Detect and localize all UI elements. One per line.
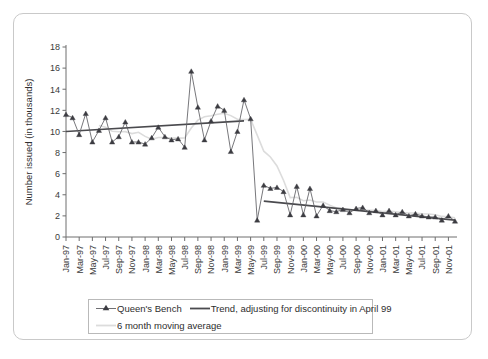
x-tick-label: Jul-00 [338, 245, 348, 270]
data-point-marker [70, 115, 75, 120]
x-tick-label: Nov-01 [444, 245, 454, 274]
x-tick-label: Mar-98 [154, 245, 164, 274]
legend-label-moving-average: 6 month moving average [117, 320, 222, 331]
x-tick-label: May-00 [325, 245, 335, 275]
x-tick-label: Jul-01 [417, 245, 427, 270]
data-point-marker [222, 108, 227, 113]
y-tick-label: 10 [50, 127, 60, 137]
x-tick-label: Nov-99 [286, 245, 296, 274]
queens-bench-line [66, 71, 455, 221]
data-point-marker [241, 97, 246, 102]
data-point-marker [360, 205, 365, 210]
x-axis: Jan-97Mar-97May-97Jul-97Sep-97Nov-97Jan-… [61, 237, 457, 275]
legend-row-1: Queen's Bench Trend, adjusting for disco… [89, 300, 372, 317]
data-point-marker [386, 208, 391, 213]
queens-bench-series [63, 69, 457, 223]
y-axis: 024681012141618 [50, 42, 66, 242]
data-point-marker [248, 116, 253, 121]
chart-figure: 024681012141618 Jan-97Mar-97May-97Jul-97… [0, 0, 488, 359]
data-point-marker [235, 129, 240, 134]
trend-line-segment [66, 121, 244, 132]
data-point-marker [446, 213, 451, 218]
x-tick-label: May-01 [404, 245, 414, 275]
y-tick-label: 16 [50, 63, 60, 73]
y-tick-label: 8 [55, 148, 60, 158]
x-tick-label: Nov-98 [206, 245, 216, 274]
legend-label-trend: Trend, adjusting for discontinuity in Ap… [211, 303, 392, 314]
y-axis-title: Number issued (in thousands) [23, 79, 34, 206]
triangle-marker-key-icon [95, 303, 117, 314]
y-tick-label: 2 [55, 211, 60, 221]
data-point-marker [288, 212, 293, 217]
x-tick-label: Jan-97 [61, 245, 71, 273]
data-point-marker [208, 118, 213, 123]
x-tick-label: Mar-00 [312, 245, 322, 274]
data-point-marker [228, 149, 233, 154]
data-point-marker [162, 134, 167, 139]
data-point-marker [83, 111, 88, 116]
x-tick-label: Jul-98 [180, 245, 190, 270]
x-tick-label: Nov-97 [127, 245, 137, 274]
data-point-marker [301, 212, 306, 217]
x-tick-label: May-97 [88, 245, 98, 275]
data-point-marker [400, 209, 405, 214]
x-tick-label: May-99 [246, 245, 256, 275]
data-point-marker [189, 69, 194, 74]
y-tick-label: 18 [50, 42, 60, 52]
solid-line-key-icon [189, 303, 211, 314]
data-point-marker [77, 132, 82, 137]
x-tick-label: May-98 [167, 245, 177, 275]
x-tick-label: Sep-01 [431, 245, 441, 274]
x-tick-label: Jul-99 [259, 245, 269, 270]
data-point-marker [90, 140, 95, 145]
legend-label-queens-bench: Queen's Bench [117, 303, 182, 314]
trend-series [66, 121, 455, 220]
x-tick-label: Mar-01 [391, 245, 401, 274]
y-tick-label: 6 [55, 169, 60, 179]
y-tick-label: 12 [50, 106, 60, 116]
x-tick-label: Sep-97 [114, 245, 124, 274]
y-axis-label: Number issued (in thousands) [23, 79, 34, 206]
data-point-marker [261, 183, 266, 188]
x-tick-label: Mar-99 [233, 245, 243, 274]
light-line-key-icon [95, 320, 117, 331]
x-tick-label: Jan-99 [220, 245, 230, 273]
x-tick-label: Jan-00 [299, 245, 309, 273]
data-point-marker [202, 137, 207, 142]
data-point-marker [274, 185, 279, 190]
data-point-marker [63, 112, 68, 117]
y-tick-label: 0 [55, 232, 60, 242]
data-point-marker [195, 105, 200, 110]
y-tick-label: 14 [50, 85, 60, 95]
y-tick-label: 4 [55, 190, 60, 200]
x-tick-label: Jan-98 [141, 245, 151, 273]
x-tick-label: Sep-00 [352, 245, 362, 274]
x-tick-label: Sep-99 [272, 245, 282, 274]
data-point-marker [123, 119, 128, 124]
data-point-marker [307, 186, 312, 191]
data-point-marker [103, 115, 108, 120]
data-point-marker [314, 213, 319, 218]
legend-row-2: 6 month moving average [89, 317, 372, 334]
data-point-marker [215, 104, 220, 109]
chart-legend: Queen's Bench Trend, adjusting for disco… [88, 299, 373, 334]
data-point-marker [294, 184, 299, 189]
data-point-marker [281, 189, 286, 194]
x-tick-label: Sep-98 [193, 245, 203, 274]
x-tick-label: Jul-97 [101, 245, 111, 270]
data-point-marker [116, 134, 121, 139]
x-tick-label: Nov-00 [365, 245, 375, 274]
data-point-marker [255, 218, 260, 223]
x-tick-label: Jan-01 [378, 245, 388, 273]
x-tick-label: Mar-97 [75, 245, 85, 274]
